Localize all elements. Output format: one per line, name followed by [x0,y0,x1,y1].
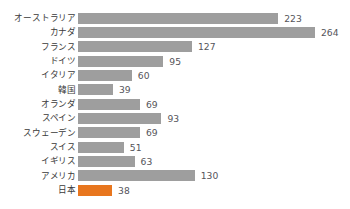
bar-track: 69 [76,126,350,140]
value-label: 69 [146,100,158,109]
bar [78,156,135,167]
category-label: オランダ [0,100,76,109]
category-label: フランス [0,43,76,52]
value-label: 95 [169,57,181,66]
horizontal-bar-chart: オーストラリア223カナダ264フランス127ドイツ95イタリア60韓国39オラ… [0,0,350,209]
value-label: 63 [141,157,153,166]
bar [78,113,161,124]
bar [78,56,163,67]
bar-row: カナダ264 [0,25,350,39]
bar-row: オーストラリア223 [0,11,350,25]
value-label: 60 [138,71,150,80]
bar-track: 69 [76,97,350,111]
bar [78,41,192,52]
bar-row: イタリア60 [0,68,350,82]
bar-row: スペイン93 [0,111,350,125]
category-label: ドイツ [0,57,76,66]
category-label: 韓国 [0,86,76,95]
bar-track: 223 [76,11,350,25]
bar-track: 93 [76,111,350,125]
category-label: 日本 [0,186,76,195]
category-label: オーストラリア [0,14,76,23]
bar [78,142,124,153]
bar-row: イギリス63 [0,155,350,169]
bar-row: 韓国39 [0,83,350,97]
category-label: スイス [0,143,76,152]
bar-track: 130 [76,169,350,183]
category-label: スウェーデン [0,129,76,138]
bar [78,127,140,138]
bar-row: フランス127 [0,40,350,54]
value-label: 51 [130,143,142,152]
value-label: 130 [201,171,219,180]
bar [78,13,278,24]
bar-row: ドイツ95 [0,54,350,68]
bar [78,170,195,181]
value-label: 39 [119,85,131,94]
value-label: 38 [118,186,130,195]
category-label: アメリカ [0,172,76,181]
bar-row: 日本38 [0,183,350,197]
bar-row: オランダ69 [0,97,350,111]
value-label: 223 [284,14,302,23]
bar-track: 60 [76,68,350,82]
bar [78,99,140,110]
bar [78,84,113,95]
category-label: カナダ [0,28,76,37]
value-label: 264 [321,28,339,37]
bar-highlighted [78,185,112,196]
category-label: イギリス [0,157,76,166]
bar-row: スイス51 [0,140,350,154]
bar [78,27,315,38]
value-label: 69 [146,128,158,137]
bar [78,70,132,81]
value-label: 93 [167,114,179,123]
bar-track: 63 [76,155,350,169]
bar-track: 95 [76,54,350,68]
bar-track: 38 [76,183,350,197]
bar-track: 51 [76,140,350,154]
category-label: スペイン [0,114,76,123]
bar-track: 264 [76,25,350,39]
category-label: イタリア [0,71,76,80]
bar-row: アメリカ130 [0,169,350,183]
bar-track: 39 [76,83,350,97]
value-label: 127 [198,42,216,51]
bar-row: スウェーデン69 [0,126,350,140]
bar-track: 127 [76,40,350,54]
